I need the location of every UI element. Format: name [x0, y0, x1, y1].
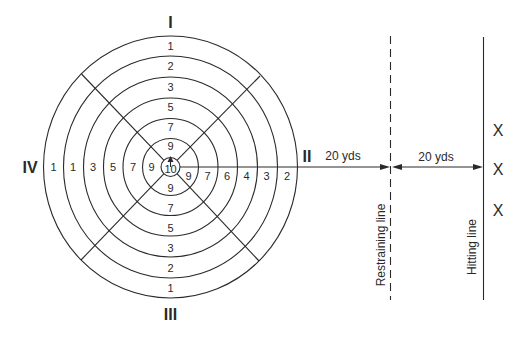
divider-lower-right — [177, 174, 259, 261]
center-value: 10 — [164, 163, 176, 175]
restraining-line-label: Restraining line — [374, 203, 388, 286]
ring-value: 3 — [167, 81, 173, 93]
x-mark-icon: X — [493, 202, 504, 219]
ring-value: 2 — [167, 60, 173, 72]
hitting-line-label: Hitting line — [465, 219, 479, 275]
ring-value: 2 — [284, 170, 290, 182]
quadrant-left-values: 1 1 3 5 7 9 — [50, 161, 154, 173]
ring-value: 1 — [167, 282, 173, 294]
hitting-position-marks: X X X — [493, 122, 504, 219]
quadrant-label-top: I — [168, 14, 172, 31]
ring-value: 9 — [167, 140, 173, 152]
archery-target-field-diagram: 10 1 2 3 5 7 9 1 1 3 5 7 9 2 3 4 6 7 9 9… — [0, 0, 524, 337]
ring-value: 1 — [50, 161, 56, 173]
ring-value: 7 — [167, 121, 173, 133]
ring-value: 9 — [167, 182, 173, 194]
ring-value: 5 — [110, 161, 116, 173]
quadrant-bottom-values: 9 7 5 3 2 1 — [167, 182, 173, 294]
ring-value: 1 — [167, 40, 173, 52]
ring-value: 1 — [70, 161, 76, 173]
x-mark-icon: X — [493, 161, 504, 178]
arrowhead-right-icon — [380, 164, 390, 170]
divider-upper-right — [177, 76, 260, 160]
ring-value: 3 — [263, 170, 269, 182]
arrowhead-right-icon — [473, 164, 483, 170]
ring-value: 3 — [90, 161, 96, 173]
ring-value: 7 — [204, 170, 210, 182]
x-mark-icon: X — [493, 122, 504, 139]
ring-value: 4 — [243, 170, 249, 182]
ring-value: 9 — [185, 170, 191, 182]
quadrant-label-bottom: III — [164, 306, 177, 323]
distance-label-1: 20 yds — [325, 149, 360, 163]
quadrant-label-left: IV — [22, 159, 37, 176]
divider-upper-left — [82, 74, 164, 160]
distance-label-2: 20 yds — [418, 150, 453, 164]
ring-value: 5 — [167, 222, 173, 234]
ring-value: 7 — [167, 202, 173, 214]
ring-value: 5 — [167, 101, 173, 113]
quadrant-top-values: 1 2 3 5 7 9 — [167, 40, 173, 152]
ring-value: 9 — [148, 161, 154, 173]
ring-value: 6 — [224, 170, 230, 182]
quadrant-label-right: II — [303, 148, 312, 165]
divider-lower-left — [81, 174, 164, 260]
ring-value: 7 — [130, 161, 136, 173]
ring-value: 2 — [167, 262, 173, 274]
ring-value: 3 — [167, 242, 173, 254]
